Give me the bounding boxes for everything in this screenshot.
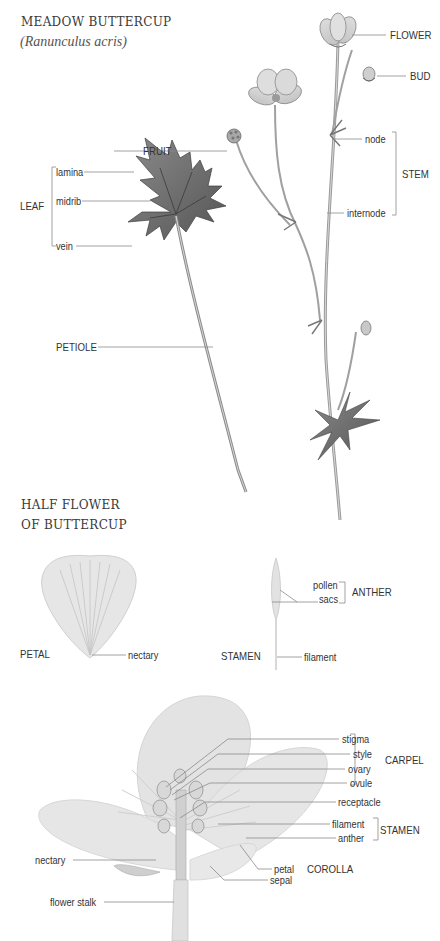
flower-second	[246, 69, 304, 108]
label-stamen-anther: anther	[338, 832, 364, 844]
label-leaf: LEAF	[20, 200, 44, 212]
label-style: style	[353, 748, 372, 760]
fruit	[227, 129, 241, 143]
label-node: node	[365, 133, 386, 145]
label-bud: BUD	[410, 70, 430, 82]
label-petal-nectary: nectary	[128, 649, 158, 661]
plant-leader-lines	[52, 35, 406, 347]
label-fruit: FRUIT	[143, 145, 172, 157]
label-internode: internode	[347, 207, 386, 219]
label-vein: vein	[56, 240, 73, 252]
label-midrib: midrib	[56, 195, 81, 207]
petal-illustration	[42, 555, 136, 658]
label-corolla-group: COROLLA	[307, 863, 353, 875]
label-ovary: ovary	[348, 763, 371, 775]
label-stigma: stigma	[342, 733, 369, 745]
label-sacs: sacs	[319, 593, 338, 605]
label-receptacle: receptacle	[338, 796, 381, 808]
flower-top	[316, 13, 360, 48]
label-pollen: pollen	[313, 579, 338, 591]
label-stamen: STAMEN	[221, 650, 261, 662]
label-petal: PETAL	[20, 648, 50, 660]
label-stamen-group: STAMEN	[380, 824, 420, 836]
label-nectary: nectary	[35, 854, 65, 866]
label-petiole: PETIOLE	[56, 341, 97, 353]
label-ovule: ovule	[350, 777, 372, 789]
bud	[363, 67, 375, 81]
label-flower: FLOWER	[390, 29, 431, 41]
label-flower-stalk: flower stalk	[50, 896, 96, 908]
label-sepal: sepal	[270, 874, 292, 886]
label-filament: filament	[304, 651, 336, 663]
lower-leaf	[310, 392, 380, 460]
whole-plant	[128, 13, 380, 520]
label-stem: STEM	[402, 168, 429, 180]
label-anther-group: ANTHER	[352, 586, 392, 598]
label-lamina: lamina	[56, 166, 83, 178]
label-stamen-filament: filament	[332, 818, 364, 830]
label-carpel-group: CARPEL	[385, 754, 424, 766]
